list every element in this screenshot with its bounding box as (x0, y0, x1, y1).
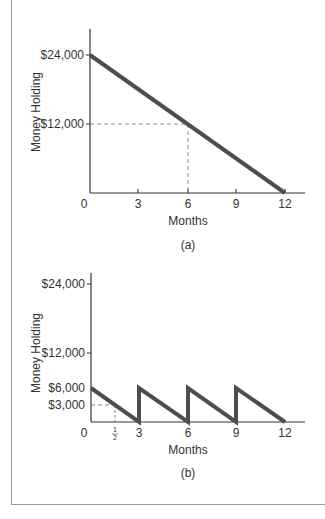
chart-a: $24,000 $12,000 0 3 6 9 12 Months Money … (29, 29, 305, 252)
chart-b-xtick-label: 3 (136, 426, 143, 440)
figure: $24,000 $12,000 0 3 6 9 12 Months Money … (0, 0, 325, 519)
chart-a-caption: (a) (181, 238, 196, 252)
chart-b-ytick-label: $24,000 (42, 277, 86, 291)
chart-b-line (91, 388, 285, 422)
chart-b-xtick-label: 12 (278, 426, 292, 440)
chart-b-xtick-label: 0 (81, 426, 88, 440)
chart-a-xtick-label: 3 (135, 197, 142, 211)
chart-b-ytick-label: $6,000 (48, 381, 85, 395)
chart-a-ytick-label: $24,000 (41, 48, 85, 62)
chart-b-caption: (b) (181, 466, 196, 480)
chart-b-xtick-half: 1 2 (112, 426, 118, 441)
chart-b-ylabel: Money Holding (29, 313, 43, 393)
chart-a-ytick-label: $12,000 (41, 117, 85, 131)
chart-a-xtick-label: 12 (278, 197, 292, 211)
chart-b-xtick-label: 9 (233, 426, 240, 440)
chart-a-ylabel: Money Holding (29, 72, 43, 152)
svg-text:1: 1 (113, 426, 117, 433)
chart-b-xlabel: Months (168, 443, 207, 457)
chart-b-ytick-label: $3,000 (48, 398, 85, 412)
chart-b-xtick-label: 6 (185, 426, 192, 440)
svg-text:2: 2 (113, 434, 117, 441)
chart-a-xtick-label: 9 (233, 197, 240, 211)
chart-b-ytick-label: $12,000 (42, 346, 86, 360)
chart-a-xtick-label: 0 (81, 197, 88, 211)
chart-b: $24,000 $12,000 $6,000 $3,000 0 1 2 3 6 … (29, 273, 305, 480)
chart-a-xtick-label: 6 (185, 197, 192, 211)
chart-a-xlabel: Months (168, 214, 207, 228)
